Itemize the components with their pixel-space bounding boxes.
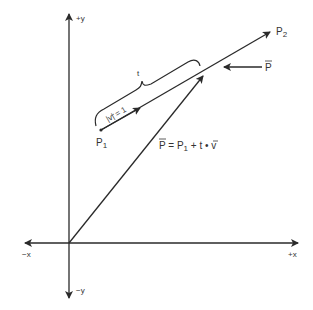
equation-label: P = P1 + t • v [159,140,216,153]
parametric-line-diagram: +y −y −x +x t |v| = 1 P1 P2 P P = P1 + t… [0,0,313,310]
pos-y-label: +y [76,14,85,23]
point-p-label: P [265,62,272,73]
p1-label: P1 [96,137,108,150]
neg-y-label: −y [76,286,85,295]
t-label: t [137,69,140,78]
pos-x-label: +x [288,250,297,259]
neg-x-label: −x [22,250,31,259]
p2-label: P2 [276,26,288,39]
position-vector-p [69,76,203,243]
